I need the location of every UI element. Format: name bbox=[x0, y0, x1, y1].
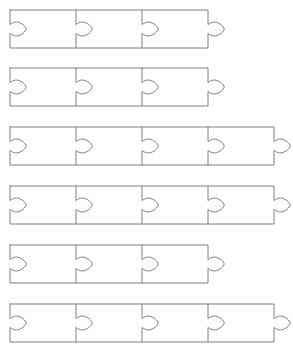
puzzle-strip bbox=[10, 68, 224, 106]
puzzle-sheet: Jigsaw puzzle piece strips Six horizonta… bbox=[0, 0, 293, 354]
puzzle-strip bbox=[10, 245, 224, 283]
puzzle-strip bbox=[10, 127, 290, 165]
puzzle-strip-outline bbox=[10, 10, 224, 48]
puzzle-strip-outline bbox=[10, 186, 290, 224]
puzzle-strip-outline bbox=[10, 68, 224, 106]
puzzle-strip bbox=[10, 304, 290, 342]
puzzle-strip bbox=[10, 10, 224, 48]
puzzle-strip bbox=[10, 186, 290, 224]
puzzle-strips-group bbox=[10, 10, 290, 342]
puzzle-strip-outline bbox=[10, 127, 290, 165]
puzzle-diagram-svg bbox=[0, 0, 293, 354]
puzzle-strip-outline bbox=[10, 304, 290, 342]
puzzle-strip-outline bbox=[10, 245, 224, 283]
